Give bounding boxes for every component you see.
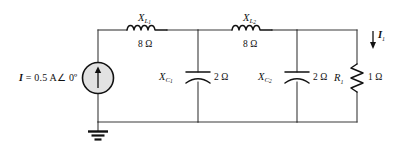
capacitor-xc2-value: 2 Ω xyxy=(313,73,327,83)
inductor-xl2-label: XL2 xyxy=(243,13,256,25)
inductor-xl1-symbol xyxy=(127,26,167,31)
current-source-equals: = xyxy=(23,72,34,83)
inductor-xl1-coils xyxy=(127,26,167,31)
current-source-angle: ∠ 0º xyxy=(57,72,77,83)
inductor-xl1-value: 8 Ω xyxy=(138,40,152,50)
branch-current-subscript: 1 xyxy=(382,36,385,42)
current-source-value: 0.5 A xyxy=(34,72,57,83)
capacitor-xc2-symbol xyxy=(285,72,309,83)
capacitor-xc2-subscript-index: 2 xyxy=(269,78,272,84)
branch-current-arrow xyxy=(370,31,376,49)
inductor-xl1-label: XL1 xyxy=(138,13,151,25)
branch-current-arrow-head xyxy=(370,42,376,49)
ground-symbol xyxy=(88,132,108,140)
inductor-xl2-value: 8 Ω xyxy=(243,40,257,50)
current-source-label: I = 0.5 A∠ 0º xyxy=(19,73,77,83)
inductor-xl2-subscript-index: 2 xyxy=(253,19,256,25)
capacitor-xc1-value: 2 Ω xyxy=(214,73,228,83)
inductor-xl2-coils xyxy=(232,26,272,31)
branch-current-label: I1 xyxy=(378,30,385,42)
capacitor-xc1-label: XC1 xyxy=(159,72,173,84)
inductor-xl1-subscript-index: 1 xyxy=(148,19,151,25)
resistor-r1-subscript-index: 1 xyxy=(340,79,343,85)
circuit-diagram: I = 0.5 A∠ 0º XL1 8 Ω XL2 8 Ω XC1 2 Ω XC… xyxy=(0,0,405,151)
resistor-r1-value: 1 Ω xyxy=(368,73,382,83)
capacitor-xc2-label: XC2 xyxy=(258,72,272,84)
resistor-r1-symbol xyxy=(351,64,363,92)
current-source-symbol xyxy=(83,63,114,94)
capacitor-xc1-subscript-index: 1 xyxy=(170,78,173,84)
capacitor-xc1-symbol xyxy=(186,72,210,83)
resistor-r1-zigzag xyxy=(351,64,363,92)
resistor-r1-label: R1 xyxy=(334,73,343,85)
inductor-xl2-symbol xyxy=(232,26,272,31)
